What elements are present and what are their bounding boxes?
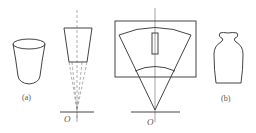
- diagram-canvas: (a) O O (b): [0, 0, 256, 133]
- vase-outline: [214, 33, 243, 84]
- right-projection: [115, 8, 196, 122]
- cup-rim: [13, 39, 45, 49]
- cup-figure: [13, 39, 45, 84]
- label-a: (a): [22, 93, 31, 102]
- cup-body: [13, 44, 45, 84]
- ray-right: [77, 62, 87, 110]
- ray-inner-right: [77, 62, 82, 110]
- origin-label-right: O: [147, 117, 154, 127]
- vase-figure: [214, 33, 243, 84]
- left-projection: [60, 10, 94, 122]
- sector-right-edge: [155, 35, 191, 110]
- ray-inner-left: [72, 62, 77, 110]
- label-b: (b): [221, 94, 231, 103]
- trapezoid-object: [64, 28, 92, 62]
- origin-label-left: O: [64, 114, 71, 124]
- sector-left-edge: [119, 35, 155, 110]
